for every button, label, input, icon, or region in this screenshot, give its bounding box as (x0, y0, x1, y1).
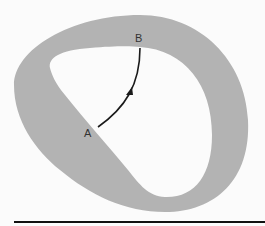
ring-region (14, 15, 248, 212)
point-a-label: A (84, 127, 92, 139)
diagram-canvas: A B (0, 0, 265, 226)
curve-a-to-b (98, 48, 140, 127)
point-b-label: B (135, 32, 142, 44)
baseline-rule (14, 221, 265, 223)
arrowhead-icon (126, 87, 133, 95)
